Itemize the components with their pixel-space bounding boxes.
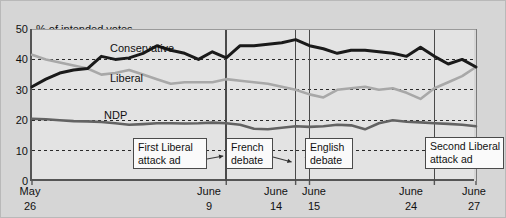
x-tick-label-june-15: June 15 [296, 185, 332, 212]
x-tick-label-june-14: June 14 [258, 185, 294, 212]
x-tick-day: 27 [456, 200, 492, 212]
annotation-leaders-layer [0, 0, 506, 218]
annotation-line-2: debate [231, 154, 268, 167]
x-tick-day: 14 [258, 200, 294, 212]
series-label-conservative: Conservative [110, 43, 174, 54]
series-label-liberal: Liberal [110, 73, 143, 84]
x-tick-month: June [191, 185, 227, 197]
chart-root: % of intended votes 50 40 30 20 10 0 Con… [0, 0, 506, 218]
x-tick-month: June [456, 185, 492, 197]
x-tick-day: 15 [296, 200, 332, 212]
series-label-ndp: NDP [104, 110, 127, 121]
annotation-line-2: attack ad [138, 154, 202, 167]
x-tick-label-june-27: June 27 [456, 185, 492, 212]
x-tick-month: May [12, 185, 48, 197]
annotation-english-debate: English debate [305, 138, 353, 169]
x-tick-label-june-24: June 24 [393, 185, 429, 212]
x-tick-month: June [258, 185, 294, 197]
annotation-french-debate: French debate [226, 138, 273, 169]
annotation-line-2: attack ad [430, 153, 499, 166]
x-tick-month: June [296, 185, 332, 197]
annotation-line-1: Second Liberal [430, 140, 499, 153]
annotation-line-1: English [310, 141, 348, 154]
x-tick-label-june-9: June 9 [191, 185, 227, 212]
annotation-line-1: French [231, 141, 268, 154]
annotation-line-1: First Liberal [138, 141, 202, 154]
x-tick-label-may-26: May 26 [12, 185, 48, 212]
annotation-line-2: debate [310, 154, 348, 167]
x-tick-day: 9 [191, 200, 227, 212]
x-tick-month: June [393, 185, 429, 197]
x-tick-day: 26 [12, 200, 48, 212]
x-tick-day: 24 [393, 200, 429, 212]
annotation-second-liberal-attack-ad: Second Liberal attack ad [425, 137, 504, 169]
annotation-first-liberal-attack-ad: First Liberal attack ad [133, 138, 207, 169]
